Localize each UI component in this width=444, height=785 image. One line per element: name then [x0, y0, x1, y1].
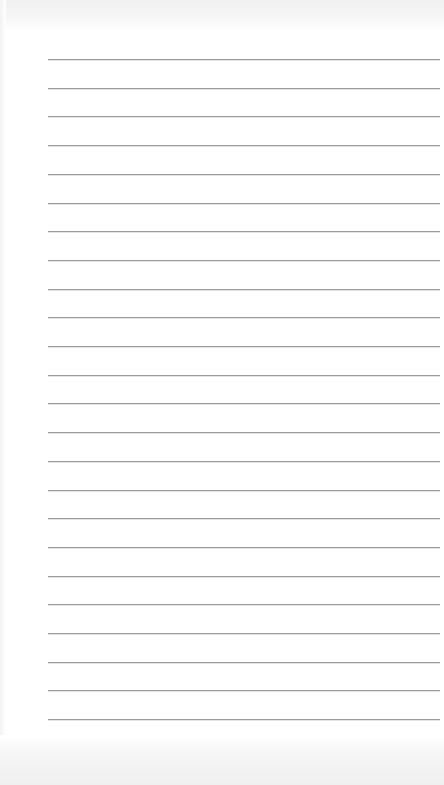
- ruled-line: [48, 490, 440, 491]
- ruled-line: [48, 633, 440, 634]
- ruled-line: [48, 116, 440, 117]
- ruled-line: [48, 662, 440, 663]
- ruled-line: [48, 145, 440, 146]
- ruled-line: [48, 317, 440, 318]
- ruled-line: [48, 719, 440, 720]
- ruled-line: [48, 88, 440, 89]
- ruled-line: [48, 59, 440, 60]
- ruled-line: [48, 346, 440, 347]
- ruled-line: [48, 461, 440, 462]
- ruled-line: [48, 576, 440, 577]
- ruled-line: [48, 403, 440, 404]
- ruled-line: [48, 518, 440, 519]
- ruled-line: [48, 432, 440, 433]
- ruled-line: [48, 547, 440, 548]
- ruled-line: [48, 260, 440, 261]
- ruled-line: [48, 203, 440, 204]
- ruled-line: [48, 604, 440, 605]
- ruled-line: [48, 174, 440, 175]
- bottom-shadow-band: [0, 735, 444, 785]
- lined-paper-page: [0, 0, 444, 785]
- ruled-line: [48, 375, 440, 376]
- ruled-line: [48, 690, 440, 691]
- ruled-line: [48, 231, 440, 232]
- ruled-line: [48, 289, 440, 290]
